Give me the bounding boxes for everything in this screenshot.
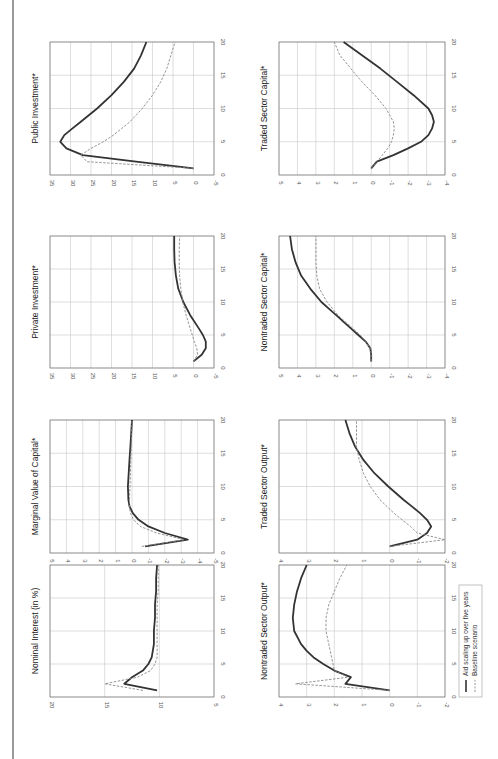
y-tick-label: -3 — [426, 180, 432, 186]
y-tick-label: -4 — [197, 558, 203, 564]
y-tick-label: 5 — [49, 559, 55, 563]
panel-private-investment: -50510152025303505101520Private Investme… — [30, 233, 226, 380]
panel-public-investment: -50510152025303505101520Public Investmen… — [30, 39, 226, 187]
x-tick-label: 5 — [220, 518, 226, 522]
y-tick-label: -5 — [213, 180, 219, 186]
y-tick-label: -2 — [444, 702, 450, 708]
y-tick-label: 2 — [333, 374, 339, 378]
y-tick-label: 2 — [333, 703, 339, 707]
series-baseline-line — [296, 565, 390, 690]
y-tick-label: -1 — [416, 702, 422, 708]
y-tick-label: 1 — [361, 559, 367, 563]
x-tick-label: 0 — [451, 173, 457, 177]
y-tick-label: 15 — [104, 702, 110, 709]
legend: Aid scaling up over five yearsBaseline s… — [459, 585, 482, 697]
y-tick-label: -4 — [444, 373, 450, 379]
y-tick-label: 15 — [131, 373, 137, 380]
x-tick-label: 0 — [220, 695, 226, 699]
x-tick-label: 15 — [220, 450, 226, 457]
y-tick-label: 3 — [315, 374, 321, 378]
y-tick-label: 2 — [98, 559, 104, 563]
series-aid-scaling-line — [293, 565, 390, 690]
x-tick-label: 10 — [451, 628, 457, 635]
x-tick-label: 20 — [451, 39, 457, 46]
series-baseline-line — [357, 420, 446, 546]
y-tick-label: 3 — [315, 181, 321, 185]
x-tick-label: 0 — [451, 366, 457, 370]
y-tick-label: 2 — [333, 559, 339, 563]
y-tick-label: 0 — [370, 181, 376, 185]
x-tick-label: 5 — [451, 518, 457, 522]
series-baseline-line — [179, 236, 197, 361]
y-tick-label: -2 — [407, 180, 413, 186]
x-tick-label: 0 — [451, 551, 457, 555]
y-tick-label: 5 — [172, 374, 178, 378]
y-tick-label: 35 — [49, 373, 55, 380]
x-tick-label: 15 — [451, 72, 457, 79]
x-tick-label: 20 — [220, 39, 226, 46]
y-tick-label: -4 — [444, 180, 450, 186]
panel-traded-sector-output: -2-10123405101520Traded Sector Output* — [259, 417, 457, 565]
chart-canvas: -50510152025303505101520Public Investmen… — [0, 0, 498, 759]
y-tick-label: 4 — [278, 559, 284, 563]
y-tick-label: 1 — [115, 559, 121, 563]
y-tick-label: 4 — [65, 559, 71, 563]
series-aid-scaling-line — [344, 42, 434, 168]
x-tick-label: 10 — [220, 299, 226, 306]
x-tick-label: 5 — [220, 662, 226, 666]
x-tick-label: 15 — [451, 450, 457, 457]
panel-title: Marginal Value of Capital* — [30, 437, 40, 535]
y-tick-label: 3 — [306, 559, 312, 563]
series-baseline-line — [316, 236, 371, 361]
x-tick-label: 20 — [220, 233, 226, 240]
y-tick-label: 10 — [158, 702, 164, 709]
panel-nominal-interest-in: 510152005101520Nominal Interest (in %) — [30, 562, 226, 709]
series-baseline-line — [130, 420, 185, 546]
y-tick-label: 20 — [49, 702, 55, 709]
x-tick-label: 15 — [220, 72, 226, 79]
y-tick-label: 25 — [90, 180, 96, 187]
y-tick-label: 3 — [306, 703, 312, 707]
panel-title: Nontraded Sector Output* — [259, 581, 269, 680]
x-tick-label: 10 — [220, 628, 226, 635]
x-tick-label: 10 — [220, 105, 226, 112]
x-tick-label: 20 — [451, 562, 457, 569]
y-tick-label: -3 — [180, 558, 186, 564]
y-tick-label: 0 — [193, 374, 199, 378]
y-tick-label: 1 — [352, 181, 358, 185]
y-tick-label: 4 — [278, 703, 284, 707]
panel-title: Traded Sector Capital* — [259, 65, 269, 151]
x-tick-label: 0 — [451, 695, 457, 699]
y-tick-label: 2 — [333, 181, 339, 185]
x-tick-label: 5 — [451, 662, 457, 666]
y-tick-label: 5 — [172, 181, 178, 185]
y-tick-label: 20 — [111, 373, 117, 380]
x-tick-label: 5 — [451, 333, 457, 337]
y-tick-label: 3 — [82, 559, 88, 563]
panel-title: Traded Sector Output* — [259, 443, 269, 528]
y-tick-label: 4 — [296, 374, 302, 378]
legend-label: Aid scaling up over five years — [462, 591, 470, 676]
y-tick-label: -1 — [389, 180, 395, 186]
y-tick-label: -2 — [444, 558, 450, 564]
x-tick-label: 0 — [220, 551, 226, 555]
series-aid-scaling-line — [124, 565, 157, 690]
y-tick-label: 0 — [131, 559, 137, 563]
panel-title: Private Investment* — [30, 264, 40, 338]
x-tick-label: 0 — [220, 366, 226, 370]
x-tick-label: 20 — [220, 562, 226, 569]
y-tick-label: -2 — [407, 373, 413, 379]
series-baseline-line — [105, 565, 159, 690]
x-tick-label: 10 — [220, 483, 226, 490]
x-tick-label: 20 — [451, 417, 457, 424]
x-tick-label: 20 — [220, 417, 226, 424]
x-tick-label: 15 — [220, 266, 226, 273]
y-tick-label: 5 — [278, 374, 284, 378]
panel-title: Public Investment* — [30, 73, 40, 144]
x-tick-label: 15 — [220, 595, 226, 602]
y-tick-label: 15 — [131, 180, 137, 187]
y-tick-label: 1 — [352, 374, 358, 378]
y-tick-label: -3 — [426, 373, 432, 379]
series-aid-scaling-line — [345, 420, 431, 546]
y-tick-label: 5 — [213, 703, 219, 707]
